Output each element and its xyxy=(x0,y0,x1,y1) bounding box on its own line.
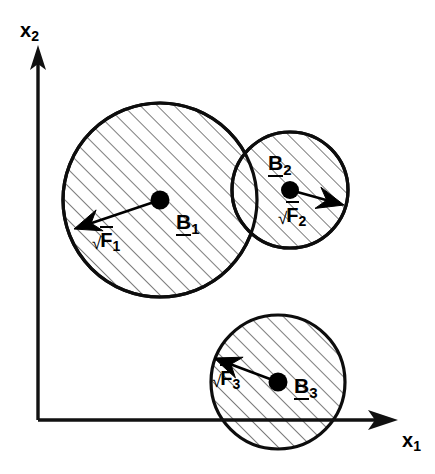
body-label-b1-base: B xyxy=(176,210,191,236)
force-f3-radical: √ xyxy=(212,372,221,391)
body-label-b1-subscript: 1 xyxy=(191,220,199,237)
body-label-b2-base: B xyxy=(268,151,283,177)
center-dot-b1 xyxy=(151,191,170,210)
x2-axis-label-base: x xyxy=(20,19,31,41)
body-label-b1: B1 xyxy=(176,211,200,236)
force-label-f1: √F1 xyxy=(92,230,120,253)
force-f2-subscript: 2 xyxy=(299,213,307,229)
x1-axis-label: x1 xyxy=(402,430,421,453)
force-f3-subscript: 3 xyxy=(233,376,241,392)
force-f2-base: F xyxy=(286,201,298,226)
force-f1-base: F xyxy=(100,226,112,251)
force-label-f2: √F2 xyxy=(278,205,306,228)
x1-axis-label-base: x xyxy=(402,429,413,451)
force-label-f3: √F3 xyxy=(212,368,240,391)
body-label-b3-subscript: 3 xyxy=(309,384,317,401)
center-dot-b2 xyxy=(281,181,299,199)
body-label-b3-base: B xyxy=(294,374,309,400)
x2-axis-label: x2 xyxy=(20,20,39,43)
center-dot-b3 xyxy=(269,373,288,392)
body-label-b2: B2 xyxy=(268,152,292,177)
body-label-b3: B3 xyxy=(294,375,318,400)
x1-axis-label-subscript: 1 xyxy=(413,438,421,454)
body-label-b2-subscript: 2 xyxy=(283,161,291,178)
force-f1-subscript: 1 xyxy=(113,238,121,254)
diagram-svg xyxy=(0,0,435,474)
force-f1-radical: √ xyxy=(92,234,101,253)
force-f2-radical: √ xyxy=(278,209,287,228)
x2-axis-label-subscript: 2 xyxy=(31,28,39,44)
force-f3-base: F xyxy=(220,364,232,389)
figure-canvas: x2 x1 B1 B2 B3 √F1 √F2 √F3 xyxy=(0,0,435,474)
